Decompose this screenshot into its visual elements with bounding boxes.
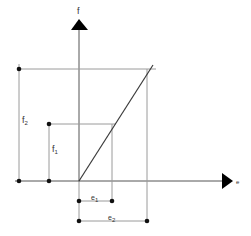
f2-label: f2 bbox=[22, 115, 29, 126]
f2-top-marker bbox=[17, 67, 22, 72]
right-arrow-icon bbox=[222, 173, 233, 189]
f1-bottom-marker bbox=[47, 179, 52, 184]
e1-label: e1 bbox=[91, 194, 99, 203]
f1-top-marker bbox=[47, 122, 52, 127]
linear-relation-line bbox=[79, 65, 153, 181]
f1-label: f1 bbox=[52, 144, 59, 155]
e1-left-marker bbox=[77, 199, 82, 204]
e1-right-marker bbox=[110, 199, 115, 204]
guide-lines bbox=[19, 64, 156, 221]
up-arrow-icon bbox=[71, 19, 88, 30]
e2-label: e2 bbox=[108, 214, 116, 223]
force-extension-diagram: f e f2 f1 e1 e2 bbox=[0, 0, 251, 236]
e2-right-marker bbox=[145, 219, 150, 224]
markers bbox=[17, 67, 150, 224]
horizontal-axis-label: e bbox=[236, 179, 240, 185]
vertical-axis-label: f bbox=[77, 6, 80, 16]
f2-bottom-marker bbox=[17, 179, 22, 184]
e2-left-marker bbox=[77, 219, 82, 224]
vertical-axis: f bbox=[71, 6, 88, 182]
